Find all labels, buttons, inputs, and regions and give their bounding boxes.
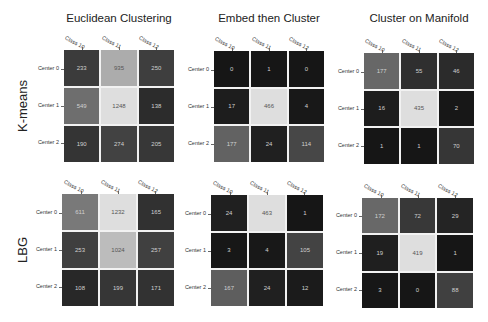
- matrix-cell: 274: [101, 126, 136, 162]
- y-tick-mark: [359, 253, 362, 254]
- matrix-cell: 1: [401, 128, 436, 164]
- y-tick-label: Center 0: [188, 66, 209, 72]
- y-tick-mark: [361, 146, 364, 147]
- confusion-matrix: 17755461643521170Class 10Class 11Class 1…: [364, 53, 474, 164]
- y-tick-mark: [61, 69, 64, 70]
- x-tick-mark: [269, 48, 270, 51]
- y-tick-label: Center 1: [338, 105, 359, 111]
- matrix-cell: 24: [211, 195, 247, 231]
- y-tick-label: Center 1: [185, 247, 206, 253]
- y-tick-label: Center 2: [338, 142, 359, 148]
- matrix-cell: 466: [251, 89, 286, 125]
- matrix-cell: 55: [401, 53, 436, 89]
- matrix-cell: 114: [289, 126, 324, 162]
- matrix-cell: 72: [400, 198, 436, 233]
- x-tick-mark: [232, 48, 233, 51]
- x-tick-mark: [456, 50, 457, 53]
- matrix-cell: 1024: [100, 232, 136, 268]
- y-tick-label: Center 2: [185, 284, 206, 290]
- matrix-cell: 4: [289, 89, 324, 125]
- matrix-cell: 3: [211, 233, 247, 269]
- matrix-grid: 17272291941913088: [362, 198, 473, 308]
- confusion-matrix: 61112321652531024257108199171Class 10Cla…: [62, 194, 174, 306]
- row-title: K-means: [15, 80, 30, 132]
- matrix-cell: 190: [64, 126, 99, 162]
- y-tick-mark: [208, 214, 211, 215]
- y-tick-mark: [359, 216, 362, 217]
- matrix-grid: 2339352505491248138190274205: [64, 50, 174, 162]
- matrix-cell: 105: [287, 233, 323, 269]
- matrix-cell: 2: [439, 91, 474, 127]
- y-tick-label: Center 2: [36, 283, 57, 289]
- confusion-matrix: 244631341051672412Class 10Class 11Class …: [211, 195, 323, 306]
- matrix-cell: 167: [211, 270, 247, 306]
- matrix-cell: 0: [214, 51, 249, 87]
- y-tick-mark: [211, 144, 214, 145]
- matrix-cell: 16: [364, 91, 399, 127]
- x-tick-mark: [82, 47, 83, 50]
- y-tick-label: Center 1: [36, 246, 57, 252]
- matrix-cell: 0: [289, 51, 324, 87]
- x-tick-mark: [381, 195, 382, 198]
- matrix-cell: 233: [64, 50, 99, 86]
- matrix-cell: 4: [249, 233, 285, 269]
- y-tick-label: Center 2: [38, 139, 59, 145]
- x-tick-mark: [119, 47, 120, 50]
- y-tick-label: Center 0: [336, 212, 357, 218]
- y-tick-mark: [208, 251, 211, 252]
- x-tick-mark: [382, 50, 383, 53]
- column-title: Cluster on Manifold: [369, 12, 468, 24]
- matrix-cell: 199: [100, 270, 136, 306]
- x-tick-mark: [418, 195, 419, 198]
- matrix-cell: 253: [62, 232, 98, 268]
- matrix-cell: 29: [437, 198, 473, 233]
- matrix-cell: 0: [400, 273, 436, 308]
- y-tick-label: Center 2: [336, 286, 357, 292]
- confusion-matrix: 17272291941913088Class 10Class 11Class 1…: [362, 198, 473, 308]
- x-tick-mark: [304, 192, 305, 195]
- x-tick-mark: [230, 192, 231, 195]
- matrix-cell: 611: [62, 194, 98, 230]
- x-tick-mark: [156, 47, 157, 50]
- matrix-cell: 24: [251, 126, 286, 162]
- y-tick-mark: [359, 290, 362, 291]
- matrix-cell: 177: [214, 126, 249, 162]
- matrix-cell: 1: [287, 195, 323, 231]
- y-tick-mark: [61, 143, 64, 144]
- matrix-cell: 70: [439, 128, 474, 164]
- x-tick-mark: [118, 191, 119, 194]
- y-tick-mark: [211, 70, 214, 71]
- row-title: LBG: [15, 237, 30, 263]
- matrix-cell: 435: [401, 91, 436, 127]
- matrix-cell: 88: [437, 273, 473, 308]
- matrix-grid: 01017466417724114: [214, 51, 324, 162]
- matrix-cell: 17: [214, 89, 249, 125]
- x-tick-mark: [81, 191, 82, 194]
- matrix-cell: 250: [139, 50, 174, 86]
- confusion-matrix: 2339352505491248138190274205Class 10Clas…: [64, 50, 174, 162]
- y-tick-label: Center 0: [36, 209, 57, 215]
- y-tick-label: Center 0: [338, 68, 359, 74]
- column-title: Euclidean Clustering: [66, 12, 171, 24]
- matrix-cell: 19: [362, 235, 398, 270]
- y-tick-mark: [361, 109, 364, 110]
- matrix-cell: 165: [138, 194, 174, 230]
- column-title: Embed then Cluster: [218, 12, 320, 24]
- y-tick-mark: [61, 106, 64, 107]
- y-tick-mark: [208, 288, 211, 289]
- matrix-cell: 935: [101, 50, 136, 86]
- matrix-cell: 419: [400, 235, 436, 270]
- y-tick-label: Center 1: [38, 102, 59, 108]
- matrix-cell: 1: [364, 128, 399, 164]
- y-tick-label: Center 0: [185, 210, 206, 216]
- matrix-cell: 24: [249, 270, 285, 306]
- matrix-grid: 244631341051672412: [211, 195, 323, 306]
- x-tick-mark: [419, 50, 420, 53]
- x-tick-mark: [267, 192, 268, 195]
- y-tick-mark: [211, 107, 214, 108]
- y-tick-mark: [361, 72, 364, 73]
- y-tick-label: Center 1: [336, 249, 357, 255]
- x-tick-mark: [306, 48, 307, 51]
- y-tick-label: Center 1: [188, 103, 209, 109]
- matrix-cell: 177: [364, 53, 399, 89]
